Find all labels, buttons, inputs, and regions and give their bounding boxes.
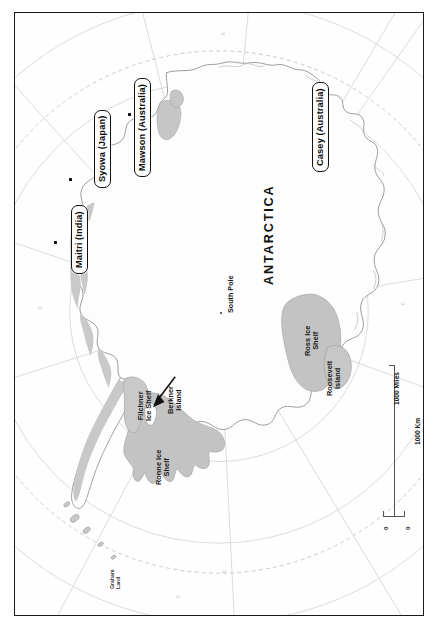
map-frame: ANTARCTICA South Pole Maitri (India) Syo… bbox=[14, 12, 424, 616]
map-page: ANTARCTICA South Pole Maitri (India) Syo… bbox=[0, 0, 438, 629]
station-label-casey[interactable]: Casey (Australia) bbox=[312, 82, 329, 172]
scale-bar-baseline bbox=[383, 516, 405, 517]
map-surface: ANTARCTICA South Pole Maitri (India) Syo… bbox=[15, 13, 423, 615]
station-label-syowa[interactable]: Syowa (Japan) bbox=[94, 110, 111, 188]
feature-label-filchner-ice-shelf: Filchner Ice Shelf bbox=[137, 391, 153, 421]
feature-label-ronne-ice-shelf: Ronne Ice Shelf bbox=[155, 450, 171, 485]
scale-label-zero-left: 0 bbox=[382, 527, 389, 530]
scale-bar-tick-zero-left bbox=[383, 511, 384, 517]
scale-bar-tick-zero-right bbox=[404, 511, 405, 517]
feature-label-ross-ice-shelf: Ross Ice Shelf bbox=[304, 326, 320, 356]
feature-label-graham-land: Graham Land bbox=[110, 569, 121, 589]
graticule-label-bottom: 0 bbox=[221, 570, 227, 573]
station-label-mawson[interactable]: Mawson (Australia) bbox=[134, 78, 151, 177]
antarctica-map-vector bbox=[15, 13, 423, 615]
graticule-label-left: 0 bbox=[37, 306, 43, 309]
feature-label-roosevelt-island: Roosevelt Island bbox=[326, 361, 342, 396]
south-pole-label: South Pole bbox=[226, 275, 235, 313]
page-title: ANTARCTICA bbox=[262, 184, 276, 285]
graticule-label-bottom-left: 0 bbox=[175, 595, 181, 598]
scale-label-miles: 1000 Miles bbox=[393, 372, 400, 405]
scale-label-zero-right: 0 bbox=[404, 527, 411, 530]
peninsula-islands bbox=[63, 501, 117, 560]
graticule-label-right: 0 bbox=[400, 302, 406, 305]
station-label-maitri[interactable]: Maitri (India) bbox=[71, 205, 88, 274]
feature-label-berkner-island: Berkner Island bbox=[167, 386, 183, 414]
graticule-label-top: 0 bbox=[220, 32, 226, 35]
south-pole-marker bbox=[220, 312, 222, 314]
amery-ice-feature-2 bbox=[170, 90, 183, 108]
scale-label-km: 1000 Km bbox=[414, 418, 421, 445]
scale-bar-tick-miles-end bbox=[389, 365, 395, 366]
